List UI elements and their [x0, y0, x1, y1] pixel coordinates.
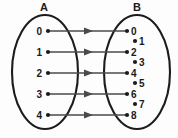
set-label-a: A [40, 1, 48, 13]
dot-a-0 [46, 29, 50, 33]
set-ellipse-b [104, 15, 170, 129]
label-a-2: 2 [36, 68, 42, 79]
dot-a-1 [46, 50, 50, 54]
label-b-7: 7 [139, 99, 145, 110]
label-b-0: 0 [131, 26, 137, 37]
label-b-3: 3 [139, 57, 145, 68]
label-a-1: 1 [36, 47, 42, 58]
dot-b-4 [125, 71, 129, 75]
label-b-8: 8 [131, 110, 137, 121]
label-b-2: 2 [131, 47, 137, 58]
arrow-head-3-to-6 [84, 91, 93, 98]
dot-a-4 [46, 113, 50, 117]
label-b-4: 4 [131, 68, 137, 79]
arrow-head-4-to-8 [84, 112, 93, 119]
dot-b-5 [133, 81, 137, 85]
dot-b-2 [125, 50, 129, 54]
dot-b-0 [125, 29, 129, 33]
dot-b-7 [133, 102, 137, 106]
diagram-canvas: 01234012345678 AB [0, 0, 178, 138]
label-a-4: 4 [36, 110, 42, 121]
set-label-b: B [133, 1, 141, 13]
dot-b-3 [133, 60, 137, 64]
arrow-head-1-to-2 [84, 49, 93, 56]
label-a-0: 0 [36, 26, 42, 37]
label-b-5: 5 [139, 78, 145, 89]
set-ellipse-a [12, 15, 78, 129]
label-a-3: 3 [36, 89, 42, 100]
dot-b-8 [125, 113, 129, 117]
dot-b-6 [125, 92, 129, 96]
set-name-labels: AB [40, 1, 141, 13]
mapping-arrows [49, 28, 126, 119]
label-b-6: 6 [131, 89, 137, 100]
arrow-head-2-to-4 [84, 70, 93, 77]
mapping-diagram: 01234012345678 AB [0, 0, 178, 138]
dot-a-3 [46, 92, 50, 96]
arrow-head-0-to-0 [84, 28, 93, 35]
dot-a-2 [46, 71, 50, 75]
dot-b-1 [133, 39, 137, 43]
label-b-1: 1 [139, 36, 145, 47]
